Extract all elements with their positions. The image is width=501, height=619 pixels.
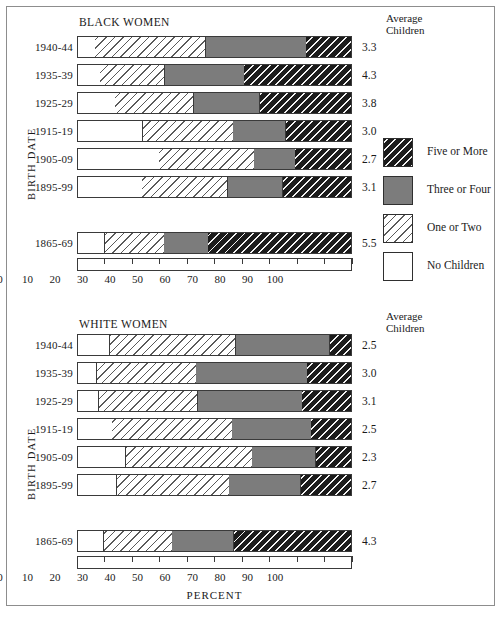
- segment-five-or-more: [301, 475, 352, 495]
- segment-no-children: [78, 391, 99, 411]
- category-label: 1940-44: [13, 41, 73, 53]
- segment-no-children: [78, 121, 143, 141]
- x-axis-tick-label: 70: [187, 273, 198, 285]
- stacked-bar: [77, 418, 352, 440]
- category-label: 1935-39: [13, 367, 73, 379]
- category-label: 1895-99: [13, 479, 73, 491]
- x-axis-tick: [269, 556, 270, 562]
- x-axis-tick: [159, 556, 160, 562]
- x-axis-tick: [324, 258, 325, 264]
- x-axis-tick: [214, 258, 215, 264]
- average-children-value: 3.1: [362, 181, 376, 193]
- stacked-bar: [77, 474, 352, 496]
- x-axis-tick: [297, 258, 298, 264]
- average-children-value: 3.0: [362, 367, 376, 379]
- x-axis-tick: [104, 258, 105, 264]
- segment-five-or-more: [311, 419, 352, 439]
- x-axis-tick: [187, 556, 188, 562]
- x-axis-tick: [132, 556, 133, 562]
- average-children-header-white: Average Children: [386, 310, 425, 334]
- average-children-value: 3.3: [362, 41, 376, 53]
- segment-five-or-more: [260, 93, 353, 113]
- segment-three-or-four: [232, 419, 311, 439]
- legend: Five or MoreThree or FourOne or TwoNo Ch…: [383, 138, 498, 283]
- segment-three-or-four: [254, 149, 295, 169]
- average-children-value: 4.3: [362, 69, 376, 81]
- x-axis-tick: [187, 258, 188, 264]
- x-axis-tick-label: 90: [242, 571, 253, 583]
- average-children-value: 2.5: [362, 339, 376, 351]
- x-axis-tick-label: 60: [160, 273, 171, 285]
- category-label: 1905-09: [13, 153, 73, 165]
- x-axis-tick: [214, 556, 215, 562]
- stacked-bar: [77, 232, 352, 254]
- legend-swatch-five: [383, 138, 413, 167]
- x-axis-tick-label: 20: [50, 571, 61, 583]
- category-label: 1895-99: [13, 181, 73, 193]
- average-children-header-black: Average Children: [386, 12, 425, 36]
- legend-item: Three or Four: [383, 176, 498, 206]
- x-axis-tick-label: 50: [132, 273, 143, 285]
- segment-no-children: [78, 419, 112, 439]
- segment-five-or-more: [244, 65, 352, 85]
- x-axis-tick: [269, 258, 270, 264]
- stacked-bar: [77, 362, 352, 384]
- segment-no-children: [78, 93, 115, 113]
- segment-no-children: [78, 177, 142, 197]
- segment-three-or-four: [233, 121, 286, 141]
- x-axis-tick-label: 20: [50, 273, 61, 285]
- segment-one-or-two: [126, 447, 252, 467]
- segment-no-children: [78, 335, 110, 355]
- segment-no-children: [78, 149, 159, 169]
- plot-area-white: [77, 332, 352, 558]
- average-children-value: 2.3: [362, 451, 376, 463]
- panel-white-women: WHITE WOMEN BIRTH DATE Average Children …: [0, 300, 501, 619]
- stacked-bar: [77, 120, 352, 142]
- x-axis-tick-label: 0: [0, 273, 3, 285]
- category-label: 1865-69: [13, 535, 73, 547]
- x-axis-tick: [159, 258, 160, 264]
- x-axis-tick-label: 80: [215, 571, 226, 583]
- segment-three-or-four: [252, 447, 316, 467]
- segment-one-or-two: [115, 93, 193, 113]
- average-children-value: 2.7: [362, 479, 376, 491]
- legend-item: Five or More: [383, 138, 498, 168]
- segment-no-children: [78, 363, 97, 383]
- segment-one-or-two: [142, 177, 228, 197]
- segment-three-or-four: [164, 233, 208, 253]
- segment-three-or-four: [229, 475, 301, 495]
- x-axis-tick: [352, 556, 353, 562]
- average-header-line1: Average: [386, 12, 425, 24]
- segment-three-or-four: [236, 335, 330, 355]
- segment-five-or-more: [330, 335, 352, 355]
- segment-one-or-two: [159, 149, 254, 169]
- segment-three-or-four: [198, 391, 302, 411]
- x-axis-tick-label: 100: [267, 273, 284, 285]
- legend-swatch-none: [383, 252, 413, 281]
- average-children-value: 3.0: [362, 125, 376, 137]
- legend-item: One or Two: [383, 214, 498, 244]
- x-axis-tick: [297, 556, 298, 562]
- category-label: 1935-39: [13, 69, 73, 81]
- x-axis-tick-label: 10: [22, 273, 33, 285]
- x-axis-tick: [242, 556, 243, 562]
- x-axis-tick: [324, 556, 325, 562]
- segment-one-or-two: [104, 531, 172, 551]
- segment-five-or-more: [306, 37, 352, 57]
- category-label: 1925-29: [13, 97, 73, 109]
- average-header-line1: Average: [386, 310, 425, 322]
- category-label: 1925-29: [13, 395, 73, 407]
- segment-five-or-more: [295, 149, 352, 169]
- average-children-value: 3.1: [362, 395, 376, 407]
- x-axis-tick-label: 70: [187, 571, 198, 583]
- legend-label: Three or Four: [427, 183, 491, 195]
- segment-three-or-four: [172, 531, 234, 551]
- x-axis-tick-label: 30: [77, 273, 88, 285]
- segment-one-or-two: [100, 65, 165, 85]
- figure-page: BLACK WOMEN BIRTH DATE Average Children …: [0, 0, 501, 619]
- segment-five-or-more: [307, 363, 352, 383]
- segment-no-children: [78, 475, 117, 495]
- category-label: 1915-19: [13, 423, 73, 435]
- segment-five-or-more: [208, 233, 352, 253]
- legend-label: No Children: [427, 259, 484, 271]
